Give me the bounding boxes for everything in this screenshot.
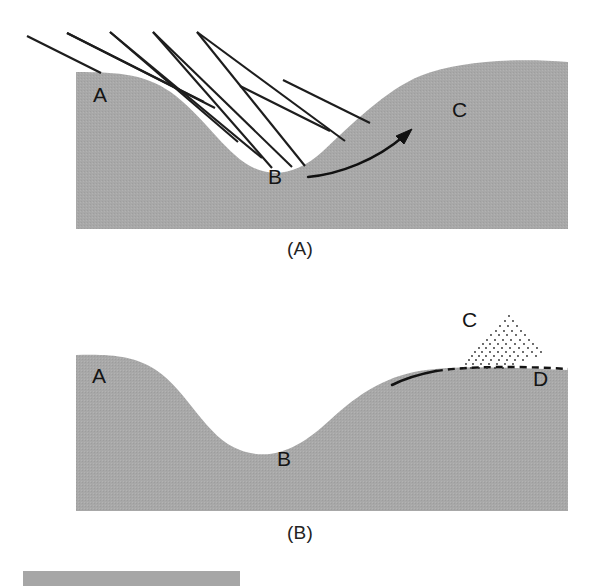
caption-panel-a: (A) <box>0 238 600 260</box>
incident-flow-lines-a-tips <box>240 80 370 131</box>
label-b-deposit-c: C <box>462 309 477 330</box>
scale-bar <box>23 571 240 586</box>
label-a-valley-b: B <box>268 166 282 187</box>
label-a-crest-a: A <box>93 84 107 105</box>
terrain-profile-a <box>76 60 568 229</box>
label-a-slope-c: C <box>452 99 467 120</box>
label-b-surface-d: D <box>533 368 548 389</box>
label-b-valley-b: B <box>277 448 291 469</box>
terrain-profile-b <box>76 355 568 511</box>
label-b-crest-a: A <box>92 365 106 386</box>
caption-panel-b: (B) <box>0 522 600 544</box>
